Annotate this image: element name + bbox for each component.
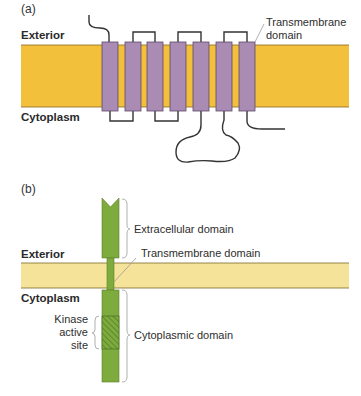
kinase-label-line3: site (50, 339, 88, 352)
panel-a-helices (102, 42, 255, 111)
kinase-label-line1: Kinase (50, 313, 88, 326)
panel-b-membrane (21, 263, 349, 288)
helix-6 (216, 42, 232, 111)
kinase-active-site-label: Kinase active site (50, 313, 88, 352)
panel-b-cytoplasm-label: Cytoplasm (21, 292, 80, 304)
panel-b-receptor (102, 198, 119, 382)
helix-4 (170, 42, 186, 111)
kinase-label-line2: active (50, 326, 88, 339)
helix-5 (193, 42, 209, 111)
helix-1 (102, 42, 118, 111)
panel-a-leader-line (255, 24, 264, 42)
helix-3 (147, 42, 163, 111)
transmembrane-domain-label: Transmembrane domain (141, 247, 260, 260)
panel-b-label: (b) (21, 182, 36, 196)
panel-b-exterior-label: Exterior (21, 248, 64, 260)
helix-7 (239, 42, 255, 111)
helix-2 (125, 42, 141, 111)
extracellular-domain-label: Extracellular domain (134, 223, 234, 236)
cytoplasmic-domain-label: Cytoplasmic domain (134, 329, 233, 342)
